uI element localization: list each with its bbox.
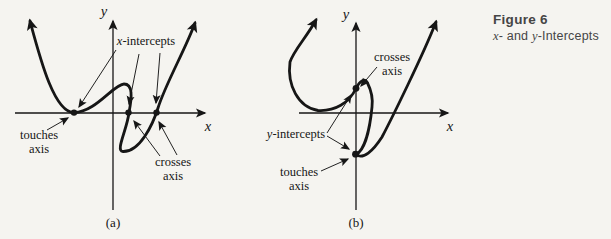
crosses-axis-label-a: crosses axis <box>155 156 191 183</box>
caption-mid: - and <box>499 29 532 43</box>
x-intercept-dot-touch-a <box>71 109 77 115</box>
arrow-xint-mid <box>129 54 139 104</box>
crosses-a-line2: axis <box>155 169 191 183</box>
figure-caption-title: Figure 6 <box>493 12 599 27</box>
arrow-xint-right <box>156 53 160 103</box>
y-intercept-dot-touch-b <box>352 151 359 158</box>
touches-b-line1: touches <box>280 166 318 180</box>
arrow-crosses-right-a <box>159 122 177 155</box>
y-intercept-dot-cross-b <box>353 85 360 92</box>
arrow-yint-upper <box>327 95 351 133</box>
touches-axis-label-b: touches axis <box>280 166 318 193</box>
annotation-arrows-a <box>47 50 177 156</box>
touches-a-line1: touches <box>20 129 58 143</box>
figure-6-panel: y x x-intercepts touches axis crosses ax… <box>0 0 611 239</box>
x-axis-letter-a: x <box>205 120 211 134</box>
x-intercept-dot-cross1-a <box>125 109 131 115</box>
x-intercepts-label: x-intercepts <box>117 35 175 49</box>
crosses-b-line1: crosses <box>374 51 410 65</box>
arrow-xint-left <box>79 50 116 107</box>
panel-tag-a: (a) <box>106 216 120 230</box>
y-intercepts-label: y-intercepts <box>267 128 325 142</box>
arrow-touches-b <box>321 159 348 171</box>
caption-rest: -Intercepts <box>538 29 599 43</box>
x-intercepts-rest: -intercepts <box>122 34 175 48</box>
y-axis-letter-b: y <box>343 8 349 22</box>
arrow-yint-lower <box>327 136 349 149</box>
y-axis-letter-a: y <box>101 5 107 19</box>
figure-caption-subtitle: x- and y-Intercepts <box>493 29 599 44</box>
x-intercept-dot-cross2-a <box>153 109 159 115</box>
touches-b-line2: axis <box>280 179 318 193</box>
panel-tag-b: (b) <box>348 216 363 230</box>
touches-a-line2: axis <box>20 142 58 156</box>
x-axis-letter-b: x <box>447 120 453 134</box>
touches-axis-label-a: touches axis <box>20 129 58 156</box>
arrow-crosses-mid-a <box>134 121 160 156</box>
crosses-axis-label-b: crosses axis <box>374 51 410 78</box>
crosses-a-line1: crosses <box>155 156 191 170</box>
figure-caption: Figure 6 x- and y-Intercepts <box>493 12 599 44</box>
intercept-dots <box>71 85 360 158</box>
crosses-b-line2: axis <box>374 64 410 78</box>
y-intercepts-rest: -intercepts <box>272 127 325 141</box>
